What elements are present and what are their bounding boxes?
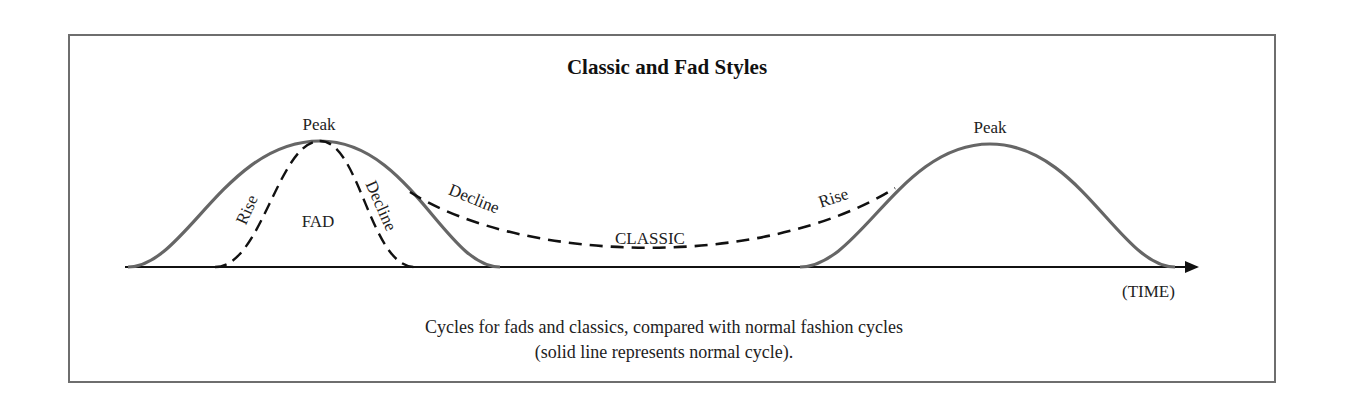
time-axis-label: (TIME)	[1122, 282, 1175, 301]
fad-label: FAD	[302, 212, 335, 231]
peak-label-left: Peak	[302, 115, 336, 134]
classic-rise-label: Rise	[816, 184, 851, 211]
classic-decline-label: Decline	[446, 180, 502, 217]
fad-rise-label: Rise	[232, 192, 262, 227]
normal-cycle-curve-left	[128, 141, 500, 267]
caption-line-2: (solid line represents normal cycle).	[535, 342, 793, 363]
classic-label: CLASSIC	[615, 229, 685, 248]
peak-label-right: Peak	[973, 118, 1007, 137]
figure-title: Classic and Fad Styles	[567, 55, 767, 79]
caption-line-1: Cycles for fads and classics, compared w…	[425, 317, 903, 337]
normal-cycle-curve-right	[800, 144, 1175, 267]
fashion-cycle-diagram: Classic and Fad Styles (TIME) Peak Peak …	[0, 0, 1346, 408]
